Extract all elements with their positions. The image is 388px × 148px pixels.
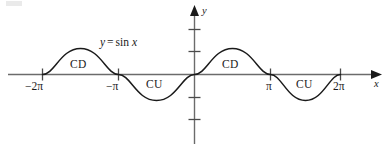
region-label-cd-right: CD [222,59,239,71]
x-axis-label: x [374,79,379,90]
x-tick-label-pi: π [266,81,272,93]
function-equation-label: y=sin x [100,37,137,49]
plot-canvas [0,0,388,148]
equation-argument: x [132,36,137,48]
y-axis-label: y [202,6,207,17]
x-tick-label-neg-pi: −π [106,81,118,93]
region-label-cu-left: CU [146,79,163,91]
region-label-cu-right: CU [296,79,313,91]
region-label-cd-left: CD [70,59,87,71]
x-tick-label-neg-2pi: −2π [25,81,43,93]
x-tick-label-2pi: 2π [333,81,345,93]
equation-operator: = [105,36,116,48]
equation-function-name: sin [116,36,129,48]
sine-curve-figure: −2π −π π 2π y x CD CU CD CU y=sin x [0,0,388,148]
